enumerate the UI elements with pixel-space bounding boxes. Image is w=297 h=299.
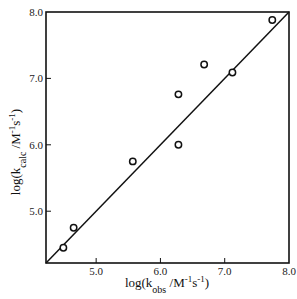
y-axis-ticks: 5.06.07.08.0 <box>29 6 51 217</box>
x-tick-label: 8.0 <box>282 265 296 277</box>
y-tick-label: 8.0 <box>29 6 43 18</box>
y-tick-label: 6.0 <box>29 139 43 151</box>
data-point-marker <box>130 158 136 164</box>
plot-area <box>46 12 289 263</box>
data-point-marker <box>229 69 235 75</box>
data-point-marker <box>175 142 181 148</box>
x-tick-label: 7.0 <box>218 265 232 277</box>
y-axis-label: log(kcalc /M-1s-1) <box>7 109 28 195</box>
x-tick-label: 5.0 <box>89 265 103 277</box>
data-point-marker <box>269 17 275 23</box>
scatter-chart: 5.06.07.08.0 5.06.07.08.0 log(kobs /M-1s… <box>0 0 297 299</box>
x-axis-label: log(kobs /M-1s-1) <box>125 274 209 295</box>
y-tick-label: 5.0 <box>29 205 43 217</box>
fit-line <box>46 12 289 263</box>
data-point-marker <box>70 225 76 231</box>
data-point-marker <box>60 245 66 251</box>
y-tick-label: 7.0 <box>29 72 43 84</box>
data-point-marker <box>201 61 207 67</box>
data-point-marker <box>175 91 181 97</box>
